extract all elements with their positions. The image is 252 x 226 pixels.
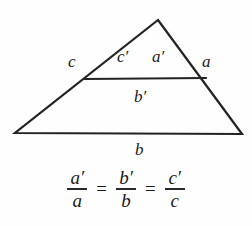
fraction-1-denominator: a [71, 190, 85, 210]
fraction-2-numerator: b′ [117, 168, 135, 188]
fraction-c-prime-over-c: c′ c [165, 168, 185, 210]
label-side-b: b [135, 141, 144, 158]
equals-sign-2: = [136, 178, 165, 200]
label-side-b-prime: b′ [134, 88, 146, 105]
fraction-3-numerator: c′ [166, 168, 183, 188]
proportion-equation: a′ a = b′ b = c′ c [0, 168, 252, 210]
fraction-3-denominator: c [169, 190, 181, 210]
label-side-c: c [68, 53, 76, 70]
midline-segment [85, 78, 206, 79]
equals-sign-1: = [87, 178, 116, 200]
figure-page: c c′ a′ a b′ b a′ a = b′ b = c′ c [0, 0, 252, 226]
label-side-a-prime: a′ [152, 48, 164, 65]
label-side-a: a [202, 53, 211, 70]
fraction-1-numerator: a′ [68, 168, 86, 188]
label-side-c-prime: c′ [117, 48, 128, 65]
fraction-b-prime-over-b: b′ b [116, 168, 136, 210]
fraction-2-denominator: b [119, 190, 133, 210]
fraction-a-prime-over-a: a′ a [67, 168, 87, 210]
outer-triangle-shape [15, 20, 242, 134]
